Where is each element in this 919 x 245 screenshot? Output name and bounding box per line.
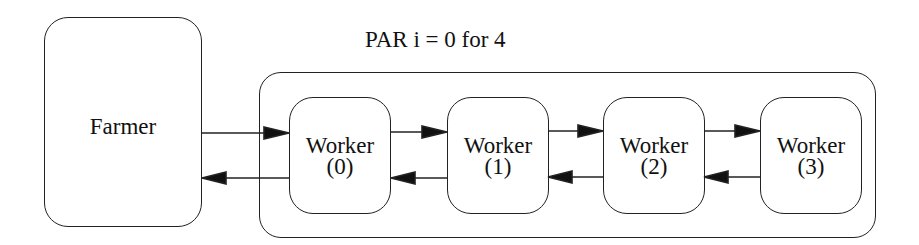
arrow-left-icon bbox=[391, 172, 447, 184]
arrow-right-icon bbox=[548, 125, 603, 137]
arrow-right-icon bbox=[704, 125, 760, 137]
edges-layer bbox=[0, 0, 919, 245]
arrow-left-icon bbox=[202, 172, 289, 184]
arrow-right-icon bbox=[202, 127, 289, 139]
arrow-right-icon bbox=[391, 126, 447, 138]
arrow-left-icon bbox=[704, 171, 760, 183]
arrow-left-icon bbox=[548, 171, 603, 183]
